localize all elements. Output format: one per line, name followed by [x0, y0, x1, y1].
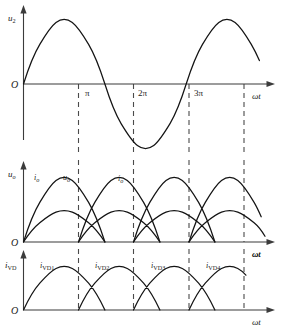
plot-uo-label-uo: uo	[63, 173, 70, 183]
plot-u2-x-label: ωt	[252, 91, 261, 101]
plot-uo-label-io-1: io	[34, 173, 39, 183]
plot-ivd-x-label: ωt	[252, 317, 261, 327]
plot-ivd-label-vd4: iVD4	[206, 261, 220, 271]
plot-ivd: iVD O ωt ωt iVD1 iVD2 iVD3 iVD4	[5, 249, 275, 327]
plot-u2-tick-3pi: 3π	[194, 88, 204, 98]
plot-u2: u2 O ωt π 2π 3π	[8, 5, 275, 149]
plot-ivd-curve	[24, 266, 246, 310]
plot-ivd-x-label-top: ωt	[252, 249, 261, 259]
dashed-guide-lines	[79, 84, 245, 310]
plot-uo-curve-uo	[24, 177, 262, 242]
plot-ivd-origin-label: O	[11, 305, 18, 316]
plot-uo-x-arrow	[267, 239, 276, 245]
plot-u2-origin-label: O	[11, 79, 18, 90]
plot-uo-curve-io	[24, 211, 266, 242]
plot-ivd-label-vd1: iVD1	[40, 261, 54, 271]
plot-u2-y-label: u2	[8, 13, 16, 24]
plot-u2-x-arrow	[267, 81, 276, 87]
plot-ivd-label-vd3: iVD3	[151, 261, 165, 271]
plot-uo: uo O ωt io uo io	[8, 161, 275, 259]
plot-u2-tick-2pi: 2π	[138, 88, 148, 98]
plot-uo-label-io-2: io	[118, 174, 123, 184]
plot-ivd-y-arrow	[20, 250, 26, 259]
plot-u2-y-arrow	[20, 5, 26, 14]
waveform-figure: u2 O ωt π 2π 3π uo O	[0, 0, 288, 334]
plot-uo-y-label: uo	[8, 169, 16, 180]
plot-uo-origin-label: O	[11, 237, 18, 248]
waveform-svg: u2 O ωt π 2π 3π uo O	[0, 0, 288, 334]
plot-ivd-x-arrow	[267, 307, 276, 313]
plot-ivd-y-label: iVD	[5, 260, 17, 271]
plot-u2-tick-pi: π	[85, 88, 90, 98]
plot-uo-y-arrow	[20, 161, 26, 170]
plot-ivd-label-vd2: iVD2	[95, 261, 109, 271]
